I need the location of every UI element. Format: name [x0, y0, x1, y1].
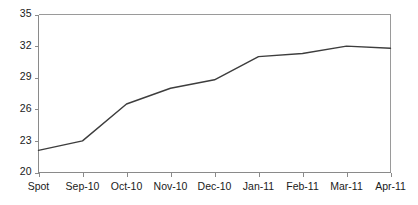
y-tick-label: 20 [20, 165, 32, 177]
x-tick-label: Sep-10 [66, 180, 100, 192]
x-tick-label: Mar-11 [330, 180, 363, 192]
x-tick-label: Nov-10 [154, 180, 188, 192]
y-tick-label: 32 [20, 39, 32, 51]
x-tick-label: Oct-10 [111, 180, 143, 192]
x-tick-label: Spot [28, 180, 50, 192]
y-tick-label: 26 [20, 102, 32, 114]
y-tick-label: 29 [20, 70, 32, 82]
chart-background [0, 0, 418, 205]
x-tick-label: Apr-11 [375, 180, 406, 192]
y-tick-label: 35 [20, 7, 32, 19]
chart-canvas: 202326293235 SpotSep-10Oct-10Nov-10Dec-1… [0, 0, 418, 205]
x-tick-label: Dec-10 [198, 180, 232, 192]
line-chart-figure: 202326293235 SpotSep-10Oct-10Nov-10Dec-1… [0, 0, 418, 205]
x-tick-label: Feb-11 [286, 180, 319, 192]
y-tick-label: 23 [20, 134, 32, 146]
x-axis-tick-labels: SpotSep-10Oct-10Nov-10Dec-10Jan-11Feb-11… [28, 180, 406, 192]
x-tick-label: Jan-11 [243, 180, 274, 192]
